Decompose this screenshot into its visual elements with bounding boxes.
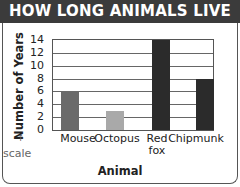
gridline — [53, 53, 213, 54]
bar-chipmunk — [196, 79, 214, 130]
bar-red-fox — [152, 40, 170, 130]
y-tick-label: 8 — [30, 73, 44, 84]
y-tick-label: 2 — [30, 111, 44, 122]
x-tick-label: Chipmunk — [166, 133, 226, 145]
y-tick-label: 14 — [30, 34, 44, 45]
y-axis-label: Number of Years — [11, 31, 27, 141]
gridline — [53, 66, 213, 67]
bar-mouse — [61, 91, 79, 130]
bar-octopus — [106, 111, 124, 130]
y-tick-label: 0 — [30, 124, 44, 135]
plot-area — [52, 39, 214, 131]
y-tick-label: 4 — [30, 98, 44, 109]
y-tick-label: 12 — [30, 47, 44, 58]
gridline — [53, 79, 213, 80]
scale-arrow-icon: ↑ — [17, 133, 25, 143]
y-tick-label: 10 — [30, 60, 44, 71]
y-tick-label: 6 — [30, 85, 44, 96]
x-axis-label: Animal — [0, 164, 240, 178]
chart-title: HOW LONG ANIMALS LIVE — [0, 0, 240, 23]
scale-annotation: scale — [3, 147, 31, 160]
